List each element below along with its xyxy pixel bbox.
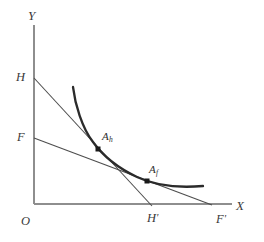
origin-label: O xyxy=(21,215,30,228)
point-Ah-label: Ah xyxy=(102,131,112,142)
marker-point-Af xyxy=(145,179,150,184)
point-Af-letter: A xyxy=(149,163,156,175)
x-intercept-foreign-letter: F xyxy=(216,212,224,226)
y-axis-label: Y xyxy=(28,9,35,22)
point-Af-subscript: f xyxy=(156,168,158,177)
budget-line-foreign xyxy=(34,138,212,205)
figure-canvas xyxy=(0,0,264,242)
x-intercept-home-letter: H xyxy=(147,211,156,225)
point-Ah-letter: A xyxy=(102,130,109,142)
economics-indifference-curve-figure: Y X O H F H' F' Ah Af xyxy=(0,0,264,242)
point-Af-label: Af xyxy=(149,164,158,175)
indifference-curve xyxy=(73,87,203,187)
x-axis-label: X xyxy=(236,199,244,212)
x-intercept-home-prime: ' xyxy=(156,211,158,223)
y-intercept-foreign-label: F xyxy=(17,131,25,144)
x-intercept-foreign-label: F' xyxy=(216,213,226,226)
marker-point-Ah xyxy=(96,147,101,152)
y-intercept-home-label: H xyxy=(16,71,25,84)
x-intercept-home-label: H' xyxy=(147,212,158,225)
point-Ah-subscript: h xyxy=(109,135,113,144)
x-intercept-foreign-prime: ' xyxy=(224,212,226,224)
